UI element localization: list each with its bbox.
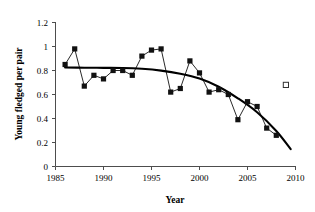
data-point-2003 xyxy=(226,92,231,97)
data-point-1994 xyxy=(139,54,144,59)
data-point-1986 xyxy=(63,62,68,67)
data-point-1995 xyxy=(149,48,154,53)
y-axis-title: Young fledged per pair xyxy=(14,47,24,141)
data-point-1997 xyxy=(168,90,173,95)
data-point-1991 xyxy=(111,68,116,73)
x-tick-label-2010: 2010 xyxy=(287,173,306,183)
chart-container: 0 0.2 0.4 0.6 0.8 1 1.2 1985 1990 1995 2… xyxy=(0,0,315,212)
data-point-2000 xyxy=(197,70,202,75)
x-axis-ticks xyxy=(56,167,296,171)
open-square-marker xyxy=(283,82,288,87)
data-point-1999 xyxy=(187,58,192,63)
y-tick-label-5: 1 xyxy=(44,42,49,52)
data-point-markers xyxy=(63,46,279,138)
data-point-1993 xyxy=(130,73,135,78)
y-axis-ticks xyxy=(52,23,56,167)
x-tick-label-1990: 1990 xyxy=(95,173,114,183)
data-point-2006 xyxy=(255,104,260,109)
data-point-1992 xyxy=(120,68,125,73)
data-point-2008 xyxy=(274,133,279,138)
data-point-1989 xyxy=(91,73,96,78)
y-tick-label-6: 1.2 xyxy=(37,18,48,28)
x-axis-title: Year xyxy=(166,195,186,205)
data-point-2001 xyxy=(207,90,212,95)
data-point-1990 xyxy=(101,76,106,81)
x-tick-label-2005: 2005 xyxy=(239,173,258,183)
data-point-1998 xyxy=(178,86,183,91)
y-tick-label-2: 0.4 xyxy=(37,114,49,124)
data-point-1988 xyxy=(82,84,87,89)
y-tick-label-0: 0 xyxy=(44,162,49,172)
x-tick-label-2000: 2000 xyxy=(191,173,210,183)
y-tick-label-3: 0.6 xyxy=(37,90,49,100)
x-tick-label-1995: 1995 xyxy=(143,173,162,183)
data-point-2004 xyxy=(235,117,240,122)
x-tick-label-1985: 1985 xyxy=(47,173,66,183)
y-tick-label-1: 0.2 xyxy=(37,138,48,148)
data-point-2002 xyxy=(216,87,221,92)
open-data-point-2009 xyxy=(283,82,288,87)
data-point-2005 xyxy=(245,99,250,104)
data-point-1987 xyxy=(72,46,77,51)
y-tick-label-4: 0.8 xyxy=(37,66,49,76)
data-point-2007 xyxy=(264,126,269,131)
data-point-1996 xyxy=(159,46,164,51)
fledging-success-line-chart: 0 0.2 0.4 0.6 0.8 1 1.2 1985 1990 1995 2… xyxy=(0,0,315,212)
